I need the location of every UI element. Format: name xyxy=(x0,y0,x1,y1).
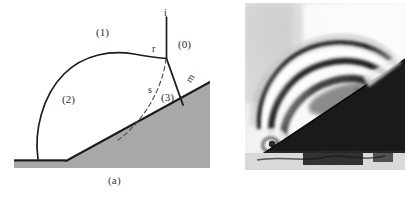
region-label-3: (3) xyxy=(161,92,174,103)
photo-bottom-dark-block xyxy=(303,153,363,165)
photo-bottom-dark-block-2 xyxy=(373,153,393,162)
schlieren-photo-content xyxy=(245,3,405,170)
schlieren-photo xyxy=(245,3,405,170)
figure-root: (1) (2) (3) (0) i r s m (a) xyxy=(0,0,415,202)
panel-b-photograph: (b) xyxy=(210,0,415,202)
panel-caption-a: (a) xyxy=(108,174,121,186)
ground-strip-fill xyxy=(14,161,66,168)
wave-label-slipstream: s xyxy=(148,85,152,95)
region-label-1: (1) xyxy=(96,27,109,38)
region-label-0: (0) xyxy=(178,39,191,50)
region-label-2: (2) xyxy=(62,94,75,105)
panel-a-schematic: (1) (2) (3) (0) i r s m (a) xyxy=(0,0,210,202)
wave-label-reflected-shock: r xyxy=(152,44,155,54)
wave-label-incident-shock: i xyxy=(164,8,167,18)
